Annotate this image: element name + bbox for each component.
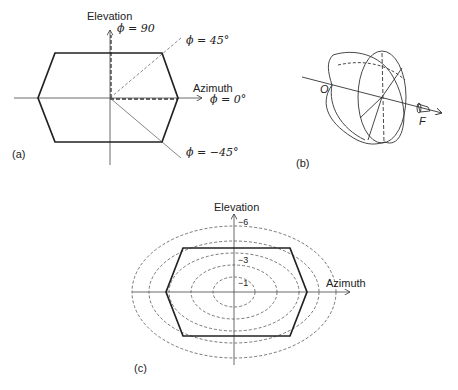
figure-canvas: Elevation ϕ = 90 ϕ = 45° Azimuth ϕ = 0° … <box>0 0 458 390</box>
azimuth-label-c: Azimuth <box>326 277 366 289</box>
panel-a: Elevation ϕ = 90 ϕ = 45° Azimuth ϕ = 0° … <box>12 10 246 165</box>
phi45-label: ϕ = 45° <box>186 34 229 47</box>
point-f-label: F <box>419 115 427 127</box>
panel-b-tag: (b) <box>296 157 309 169</box>
contour-label-6: −6 <box>238 217 248 227</box>
panel-a-tag: (a) <box>12 148 25 160</box>
contour-label-1: −1 <box>238 278 248 288</box>
aperture-chord-1 <box>382 68 402 97</box>
contour-label-3: −3 <box>238 255 248 265</box>
hexagon-boundary <box>38 53 178 142</box>
phi0-label: ϕ = 0° <box>210 93 246 106</box>
phi90-label: ϕ = 90 <box>117 22 155 35</box>
panel-b <box>302 51 442 144</box>
reflector-inner <box>331 85 365 140</box>
panel-c: Elevation −6 −3 −1 Azimuth (c) <box>132 201 366 374</box>
elevation-label-c: Elevation <box>214 201 259 213</box>
phim45-label: ϕ = −45° <box>186 146 238 159</box>
phim45-ray <box>110 98 181 158</box>
phi45-ray <box>110 38 181 98</box>
point-o-label: O <box>320 83 329 95</box>
meridian-dashed <box>338 63 405 80</box>
panel-c-tag: (c) <box>134 362 147 374</box>
elevation-label: Elevation <box>87 10 132 22</box>
